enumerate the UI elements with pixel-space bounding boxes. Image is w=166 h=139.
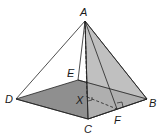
label-a: A [79,6,87,18]
pyramid-diagram: A B C D E X F [0,0,166,139]
face-acb [85,21,147,119]
label-x: X [75,94,84,106]
label-f: F [114,114,122,126]
label-b: B [149,97,156,109]
label-d: D [5,93,13,105]
label-e: E [67,67,75,79]
edge-ae [78,21,85,80]
label-c: C [84,123,92,135]
